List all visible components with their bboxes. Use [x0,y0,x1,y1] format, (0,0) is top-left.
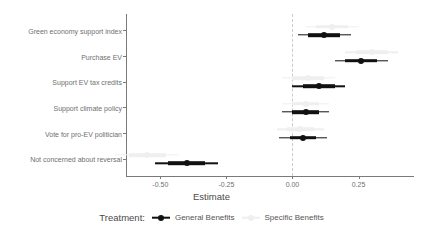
x-axis-tick-mark [292,176,293,179]
x-axis-tick-label: 0.00 [267,181,317,188]
x-axis-tick-mark [226,176,227,179]
point-estimate [358,58,364,64]
point-estimate [184,160,190,166]
legend-label-general-benefits: General Benefits [175,213,235,222]
y-axis-tick-label: Vote for pro-EV politician [45,130,122,137]
coefficient-plot: Green economy support indexPurchase EVSu… [0,0,423,234]
point-estimate [297,126,303,132]
y-axis-tick-label: Support climate policy [54,104,122,111]
legend-label-specific-benefits: Specific Benefits [265,213,324,222]
x-axis-tick-label: -0.50 [135,181,185,188]
point-estimate [329,24,335,30]
x-axis-line [126,176,414,177]
legend-marker-specific-benefits [242,214,260,221]
point-estimate [303,101,309,107]
y-axis-tick-label: Not concerned about reversal [30,156,122,163]
legend-marker-general-benefits [152,214,170,221]
point-estimate [316,83,322,89]
point-estimate [144,152,150,158]
x-axis-title: Estimate [0,191,423,202]
point-estimate [300,135,306,141]
x-axis-tick-label: 0.25 [334,181,384,188]
zero-line [292,14,293,176]
point-estimate [321,32,327,38]
y-axis-tick-label: Green economy support index [28,27,122,34]
point-estimate [305,75,311,81]
x-axis-tick-mark [160,176,161,179]
point-estimate [303,109,309,115]
y-axis-tick-label: Purchase EV [81,53,122,60]
legend-title: Treatment: [99,212,145,223]
x-axis-tick-label: -0.25 [201,181,251,188]
legend-item-general-benefits[interactable]: General Benefits [152,213,235,222]
x-axis-tick-mark [359,176,360,179]
y-axis-tick-label: Support EV tax credits [52,79,122,86]
legend: Treatment: General Benefits Specific Ben… [0,212,423,223]
legend-item-specific-benefits[interactable]: Specific Benefits [242,213,324,222]
y-axis-line [126,14,127,176]
point-estimate [369,49,375,55]
